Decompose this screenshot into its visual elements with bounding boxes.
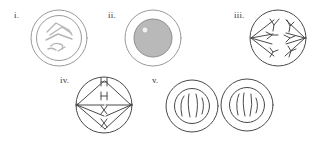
figure-i-label: i. <box>14 11 19 20</box>
cell-membrane-icon <box>31 10 87 66</box>
figure-v-label: v. <box>152 76 159 85</box>
spindle-fibers-group <box>251 20 305 56</box>
chromosomes-group <box>237 93 258 116</box>
chromosomes-group <box>46 23 72 51</box>
figure-ii-label: ii. <box>108 11 116 20</box>
cell-membrane-icon <box>166 80 218 132</box>
chromosomes-group <box>101 78 107 127</box>
cell-membrane-icon <box>250 10 306 66</box>
figure-i-prophase: i. <box>14 8 100 70</box>
chromosomes-group <box>181 94 204 117</box>
chromosomes-group <box>266 19 296 57</box>
figure-ii-interphase: ii. <box>108 8 194 70</box>
cell-membrane-icon <box>221 79 273 131</box>
nuclear-envelope-icon <box>175 89 210 124</box>
daughter-cell-right <box>221 79 273 131</box>
spindle-pole-left-icon <box>76 104 79 107</box>
nucleolus-icon <box>143 28 148 33</box>
figure-iii-label: iii. <box>234 11 245 20</box>
daughter-cell-left <box>166 80 218 132</box>
figure-iii-anaphase: iii. <box>234 8 318 70</box>
spindle-fibers-group <box>77 81 131 129</box>
nuclear-envelope-icon <box>230 88 265 123</box>
spindle-pole-right-icon <box>130 104 133 107</box>
figure-iv-label: iv. <box>60 76 69 85</box>
figure-v-telophase-cytokinesis: v. <box>152 72 288 140</box>
figure-iv-metaphase: iv. <box>60 72 144 140</box>
nucleus-icon <box>134 19 172 57</box>
mitosis-diagram-page: i. ii. <box>0 0 318 142</box>
nuclear-envelope-icon <box>37 16 82 61</box>
